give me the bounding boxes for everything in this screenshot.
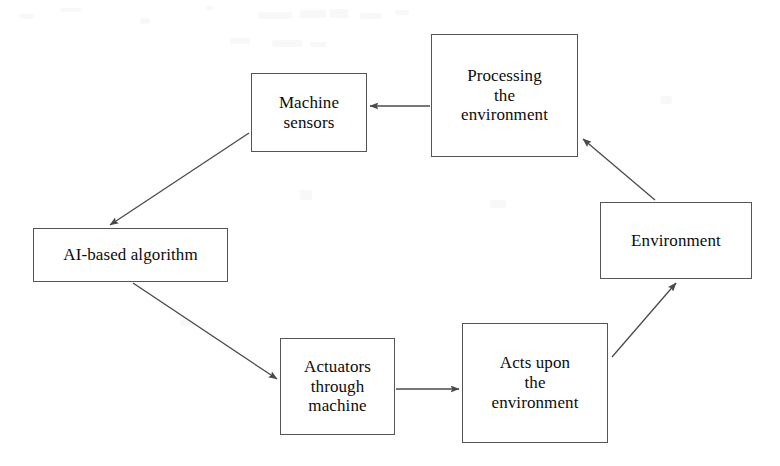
node-actuators-through-machine[interactable]: Actuators through machine bbox=[280, 338, 395, 435]
scan-artifact bbox=[230, 38, 250, 44]
node-label-acts-upon-the-environment: Acts upon the environment bbox=[487, 353, 582, 412]
scan-artifact bbox=[330, 9, 348, 18]
edge-algorithm-to-actuators bbox=[133, 283, 277, 379]
scan-artifact bbox=[205, 6, 213, 10]
scan-artifact bbox=[272, 40, 302, 47]
scan-artifact bbox=[60, 8, 82, 12]
node-acts-upon-the-environment[interactable]: Acts upon the environment bbox=[462, 323, 608, 443]
scan-artifact bbox=[180, 320, 194, 326]
scan-artifact bbox=[258, 12, 292, 19]
scan-artifact bbox=[490, 200, 506, 208]
node-ai-based-algorithm[interactable]: AI-based algorithm bbox=[33, 228, 228, 282]
scan-artifact bbox=[660, 96, 672, 104]
diagram-canvas: Machine sensorsProcessing the environmen… bbox=[0, 0, 780, 466]
edge-sensors-to-algorithm bbox=[110, 133, 249, 225]
node-label-environment: Environment bbox=[627, 231, 725, 251]
node-label-processing-the-environment: Processing the environment bbox=[457, 66, 552, 125]
node-label-ai-based-algorithm: AI-based algorithm bbox=[59, 245, 201, 265]
scan-artifact bbox=[300, 190, 312, 200]
edge-acts-to-environment bbox=[612, 283, 676, 357]
scan-artifact bbox=[395, 10, 409, 15]
node-processing-the-environment[interactable]: Processing the environment bbox=[431, 34, 578, 157]
edge-environment-to-processing bbox=[583, 139, 655, 200]
node-environment[interactable]: Environment bbox=[600, 202, 752, 279]
scan-artifact bbox=[300, 10, 326, 18]
scan-artifact bbox=[140, 18, 150, 24]
scan-artifact bbox=[310, 42, 326, 47]
scan-artifact bbox=[360, 13, 382, 19]
scan-artifact bbox=[20, 14, 34, 19]
node-machine-sensors[interactable]: Machine sensors bbox=[251, 73, 367, 152]
node-label-machine-sensors: Machine sensors bbox=[275, 93, 343, 132]
node-label-actuators-through-machine: Actuators through machine bbox=[300, 357, 375, 416]
